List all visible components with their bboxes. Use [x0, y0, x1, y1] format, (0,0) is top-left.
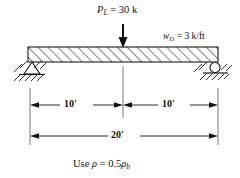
point-load-subscript: L — [103, 8, 107, 17]
distributed-load-label: wD = 3 k/ft — [163, 32, 205, 43]
pin-support-left — [14, 61, 46, 81]
distributed-load-subscript: D — [169, 35, 174, 42]
note-equals: = — [97, 158, 108, 169]
dimension-right-label: 10' — [162, 99, 175, 109]
dimension-total-label: 20' — [111, 130, 124, 140]
distributed-load-equals: = — [177, 31, 182, 41]
note-rho-b-subscript: b — [126, 162, 130, 171]
note-coefficient: 0.5 — [108, 158, 121, 169]
dimension-total-span — [30, 133, 218, 139]
pin-ground-hatch — [14, 75, 43, 81]
point-load-arrow — [119, 24, 128, 48]
diagram-canvas — [0, 0, 240, 178]
point-load-value: 30 — [119, 4, 130, 15]
distributed-load-value: 3 — [184, 31, 189, 41]
note-prefix: Use — [73, 158, 92, 169]
beam-rect — [28, 47, 218, 62]
beam-loading-diagram: PL = 30 k wD = 3 k/ft 10' 10' 20' Use ρ … — [0, 0, 240, 178]
extension-lines — [30, 66, 218, 145]
roller-support-right — [194, 62, 232, 80]
dimension-left-label: 10' — [64, 99, 77, 109]
point-load-unit: k — [132, 4, 137, 15]
distributed-load-unit: k/ft — [192, 31, 205, 41]
point-load-equals: = — [110, 4, 116, 15]
roller-circle — [210, 63, 220, 73]
roller-ground-hatch — [200, 74, 229, 80]
beam-member — [28, 47, 218, 62]
design-note: Use ρ = 0.5ρb — [73, 159, 130, 170]
point-load-label: PL = 30 k — [97, 5, 137, 16]
